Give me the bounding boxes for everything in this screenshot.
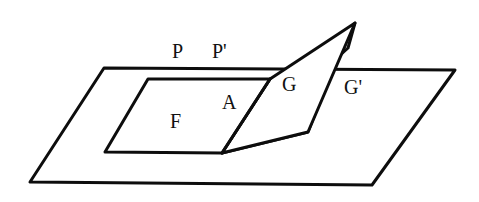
- figure-container: P P' F A G G': [0, 0, 479, 202]
- label-G-prime: G': [344, 77, 362, 97]
- label-P-prime: P': [212, 41, 227, 61]
- label-G: G: [282, 74, 296, 94]
- label-F: F: [170, 111, 181, 131]
- label-A: A: [222, 92, 236, 112]
- geometry-canvas: [0, 0, 479, 202]
- label-P: P: [172, 41, 183, 61]
